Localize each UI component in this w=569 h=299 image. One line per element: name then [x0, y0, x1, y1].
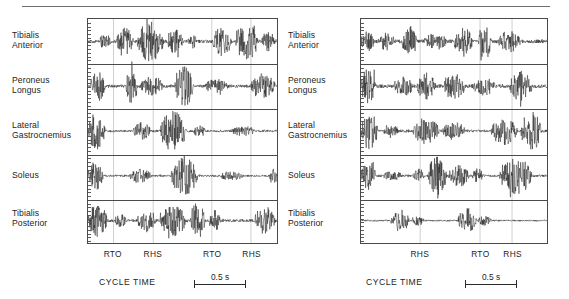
time-scale-bar-line — [465, 284, 517, 285]
y-axis-tick — [361, 128, 364, 129]
y-axis-tick — [361, 143, 364, 144]
y-axis-tick — [361, 189, 364, 190]
y-axis-tick — [88, 34, 91, 35]
y-axis-tick — [361, 177, 364, 178]
y-axis-tick — [361, 91, 364, 92]
emg-trace — [88, 111, 277, 149]
y-axis-tick — [361, 102, 364, 103]
cycle-time-caption-left: CYCLE TIME — [99, 277, 155, 287]
y-axis-tick — [88, 166, 91, 167]
y-axis-tick — [88, 151, 91, 152]
y-axis-tick — [361, 230, 364, 231]
y-axis-tick — [88, 177, 91, 178]
time-scale-bar-cap-right — [245, 280, 246, 288]
y-axis-tick — [361, 49, 364, 50]
y-axis-tick — [361, 30, 364, 31]
time-scale-bar-right: 0.5 s — [465, 272, 517, 290]
gait-event-label-rto: RTO — [104, 249, 122, 259]
muscle-label-line1: Peroneus — [288, 75, 326, 85]
emg-trace — [361, 112, 547, 149]
y-axis-tick — [88, 30, 91, 31]
y-axis-tick — [88, 132, 91, 133]
panel-left: Tibialis Anterior Peroneus Longus Latera… — [0, 0, 285, 299]
y-axis-tick — [361, 170, 364, 171]
y-axis-tick — [361, 207, 364, 208]
y-axis-tick — [361, 34, 364, 35]
y-axis-tick — [361, 147, 364, 148]
emg-traces-right — [361, 19, 547, 243]
y-axis-tick — [361, 94, 364, 95]
y-axis-tick — [361, 124, 364, 125]
y-axis-tick — [361, 234, 364, 235]
muscle-label-tibialis-posterior: Tibialis Posterior — [12, 208, 47, 228]
y-axis-tick — [88, 222, 91, 223]
y-axis-tick — [361, 87, 364, 88]
muscle-label-line2: Longus — [12, 85, 50, 95]
y-axis-tick — [361, 204, 364, 205]
y-axis-tick — [88, 98, 91, 99]
y-axis-tick — [361, 151, 364, 152]
y-axis-tick — [88, 94, 91, 95]
y-axis-tick — [88, 38, 91, 39]
emg-trace — [88, 204, 277, 239]
y-axis-tick — [88, 215, 91, 216]
y-axis-tick — [361, 158, 364, 159]
y-axis-tick — [361, 68, 364, 69]
y-axis-tick — [361, 76, 364, 77]
muscle-label-line2: Posterior — [288, 218, 323, 228]
y-axis-tick — [361, 38, 364, 39]
y-axis-tick — [88, 128, 91, 129]
muscle-label-line1: Soleus — [12, 170, 39, 180]
y-axis-tick — [361, 241, 364, 242]
emg-trace — [88, 156, 277, 194]
y-axis-tick — [88, 53, 91, 54]
muscle-label-list-left: Tibialis Anterior Peroneus Longus Latera… — [12, 18, 90, 244]
emg-figure: Tibialis Anterior Peroneus Longus Latera… — [0, 0, 569, 299]
y-axis-tick — [361, 60, 364, 61]
y-axis-tick — [88, 106, 91, 107]
muscle-label-tibialis-posterior: Tibialis Posterior — [288, 208, 323, 228]
y-axis-tick — [361, 192, 364, 193]
y-axis-tick — [88, 211, 91, 212]
muscle-label-tibialis-anterior: Tibialis Anterior — [12, 30, 43, 50]
y-axis-tick — [361, 53, 364, 54]
y-axis-tick — [88, 147, 91, 148]
y-axis-tick — [88, 219, 91, 220]
y-axis-tick — [361, 23, 364, 24]
y-axis-tick — [88, 230, 91, 231]
y-axis-tick — [88, 136, 91, 137]
gait-event-label-rto: RTO — [471, 249, 489, 259]
y-axis-tick — [361, 196, 364, 197]
time-scale-bar-cap-left — [194, 280, 195, 288]
y-axis-ticks-right — [361, 19, 365, 243]
channel-separator — [361, 200, 547, 201]
y-axis-tick — [88, 72, 91, 73]
y-axis-tick — [361, 237, 364, 238]
y-axis-tick — [88, 185, 91, 186]
y-axis-tick — [361, 162, 364, 163]
y-axis-tick — [88, 79, 91, 80]
muscle-label-line1: Tibialis — [288, 208, 323, 218]
y-axis-tick — [88, 207, 91, 208]
y-axis-tick — [88, 87, 91, 88]
y-axis-tick — [88, 45, 91, 46]
y-axis-tick — [88, 113, 91, 114]
panel-right: Tibialis Anterior Peroneus Longus Latera… — [285, 0, 569, 299]
y-axis-tick — [361, 173, 364, 174]
y-axis-tick — [88, 204, 91, 205]
y-axis-tick — [88, 27, 91, 28]
y-axis-tick — [88, 170, 91, 171]
y-axis-tick — [88, 140, 91, 141]
y-axis-tick — [88, 189, 91, 190]
y-axis-tick — [88, 102, 91, 103]
muscle-label-line2: Gastrocnemius — [12, 130, 71, 140]
y-axis-tick — [361, 215, 364, 216]
y-axis-tick — [88, 192, 91, 193]
emg-trace — [88, 62, 277, 106]
y-axis-tick — [88, 57, 91, 58]
y-axis-tick — [361, 106, 364, 107]
y-axis-tick — [361, 211, 364, 212]
y-axis-tick — [88, 158, 91, 159]
y-axis-tick — [88, 76, 91, 77]
muscle-label-line1: Tibialis — [12, 30, 43, 40]
